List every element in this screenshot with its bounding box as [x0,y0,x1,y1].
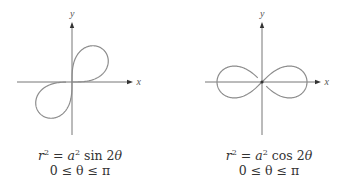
eq-equals: = [237,148,255,163]
equation-line: r2 = a2 cos 2θ [219,145,319,163]
eq-fn: sin 2 [80,148,114,163]
figure-sin-lemniscate: x y [17,8,142,135]
equation-line: r2 = a2 sin 2θ [30,145,130,163]
caption-cos: r2 = a2 cos 2θ 0 ≤ θ ≤ π [219,145,319,178]
y-axis-arrow-icon [260,22,264,28]
caption-sin: r2 = a2 sin 2θ 0 ≤ θ ≤ π [30,145,130,178]
domain-line: 0 ≤ θ ≤ π [30,163,130,178]
eq-theta: θ [305,148,313,163]
eq-a: a [68,148,75,163]
eq-a: a [255,148,262,163]
x-axis-label: x [136,76,142,87]
x-axis-arrow-icon [315,80,321,84]
figure-cos-lemniscate: x y [205,8,330,135]
y-axis-label: y [259,8,265,19]
x-axis-label: x [324,76,330,87]
x-axis-arrow-icon [127,80,133,84]
y-axis-label: y [69,8,75,19]
eq-theta: θ [114,148,122,163]
origin-dot [260,80,263,83]
eq-equals: = [49,148,67,163]
domain-line: 0 ≤ θ ≤ π [219,163,319,178]
eq-fn: cos 2 [268,148,305,163]
y-axis-arrow-icon [70,22,74,28]
